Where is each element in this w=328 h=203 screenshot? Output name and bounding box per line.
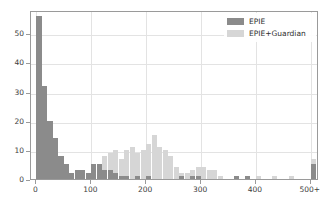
histogram-bar xyxy=(102,170,107,179)
y-axis-tick-label: 0 xyxy=(2,176,24,184)
histogram-bar xyxy=(218,176,223,179)
x-axis-tick-label: 300 xyxy=(180,186,220,194)
histogram-bar xyxy=(47,121,52,179)
histogram-bar xyxy=(124,176,129,179)
histogram-bar xyxy=(174,167,179,179)
histogram-bar xyxy=(119,176,124,179)
histogram-bar xyxy=(80,170,85,179)
histogram-bar xyxy=(152,135,157,179)
histogram-bar xyxy=(207,170,212,179)
chart-legend: EPIE EPIE+Guardian xyxy=(224,13,316,42)
y-axis-tick xyxy=(26,93,30,94)
legend-swatch-epie-guardian xyxy=(227,30,244,37)
histogram-bar xyxy=(146,144,151,179)
histogram-bar xyxy=(69,173,74,179)
histogram-bar xyxy=(179,176,184,179)
legend-label-epie-guardian: EPIE+Guardian xyxy=(249,30,306,38)
histogram-bar xyxy=(130,147,135,179)
histogram-bar xyxy=(201,167,206,179)
y-axis-tick xyxy=(26,34,30,35)
histogram-bar xyxy=(245,176,250,179)
x-axis-tick-label: 100 xyxy=(70,186,110,194)
y-axis-tick xyxy=(26,151,30,152)
legend-entry-epie-guardian: EPIE+Guardian xyxy=(227,28,313,39)
histogram-bar xyxy=(146,176,151,179)
histogram-figure: 01020304050 0100200300400500+ EPIE EPIE+… xyxy=(0,0,328,203)
x-axis-tick xyxy=(255,180,256,184)
histogram-bar xyxy=(36,16,41,179)
x-axis-tick xyxy=(90,180,91,184)
y-axis-tick-label: 10 xyxy=(2,147,24,155)
histogram-bar xyxy=(91,164,96,179)
histogram-bar xyxy=(256,176,261,179)
y-axis-tick xyxy=(26,180,30,181)
histogram-bar xyxy=(42,86,47,179)
x-axis-tick-label: 200 xyxy=(125,186,165,194)
histogram-bar xyxy=(163,150,168,179)
histogram-bar xyxy=(196,176,201,179)
x-axis-tick xyxy=(35,180,36,184)
histogram-bar xyxy=(135,153,140,179)
histogram-bar xyxy=(97,164,102,179)
histogram-bar xyxy=(64,164,69,179)
histogram-bar xyxy=(141,150,146,179)
histogram-bar xyxy=(135,176,140,179)
y-axis-tick xyxy=(26,63,30,64)
histogram-bar xyxy=(272,176,277,179)
x-axis-tick-label: 500+ xyxy=(290,186,328,194)
histogram-bar xyxy=(234,176,239,179)
x-axis-tick xyxy=(200,180,201,184)
histogram-bar xyxy=(157,147,162,179)
histogram-bar xyxy=(58,156,63,179)
x-axis-tick-label: 400 xyxy=(235,186,275,194)
histogram-bar xyxy=(311,164,316,179)
y-axis-tick xyxy=(26,122,30,123)
histogram-bar xyxy=(289,176,294,179)
histogram-bar xyxy=(185,173,190,179)
histogram-bar xyxy=(212,170,217,179)
histogram-bar xyxy=(53,138,58,179)
y-axis-tick-label: 20 xyxy=(2,118,24,126)
legend-entry-epie: EPIE xyxy=(227,16,313,27)
x-axis-tick-label: 0 xyxy=(15,186,55,194)
x-axis-tick xyxy=(145,180,146,184)
legend-swatch-epie xyxy=(227,18,244,25)
histogram-bar xyxy=(113,173,118,179)
y-axis-tick-label: 40 xyxy=(2,59,24,67)
x-axis-tick xyxy=(310,180,311,184)
histogram-bar xyxy=(124,150,129,179)
y-axis-tick-label: 30 xyxy=(2,89,24,97)
histogram-bar xyxy=(168,156,173,179)
histogram-bar xyxy=(190,176,195,179)
histogram-bar xyxy=(86,173,91,179)
y-axis-tick-label: 50 xyxy=(2,30,24,38)
histogram-bar xyxy=(108,170,113,179)
legend-label-epie: EPIE xyxy=(249,18,265,26)
histogram-bar xyxy=(75,170,80,179)
